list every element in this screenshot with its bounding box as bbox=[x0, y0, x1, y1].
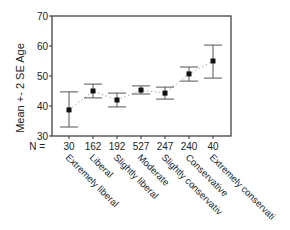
n-count-label: 40 bbox=[207, 141, 219, 152]
y-tick-label: 70 bbox=[37, 11, 49, 22]
error-bar-plot: 3040506070 N =3016219252724724040 Extrem… bbox=[0, 0, 290, 230]
mean-marker bbox=[211, 59, 216, 64]
mean-marker bbox=[115, 98, 120, 103]
plot-frame bbox=[52, 16, 231, 136]
n-count-label: 162 bbox=[85, 141, 102, 152]
y-tick-label: 60 bbox=[37, 41, 49, 52]
mean-marker bbox=[163, 91, 168, 96]
category-labels: Extremely liberalLiberalSlightly liberal… bbox=[64, 152, 278, 222]
plot-border bbox=[52, 16, 231, 136]
y-tick-label: 30 bbox=[37, 131, 49, 142]
mean-marker bbox=[187, 71, 192, 76]
chart-area: 3040506070 N =3016219252724724040 Extrem… bbox=[0, 0, 290, 230]
mean-marker bbox=[67, 107, 72, 112]
y-tick-label: 50 bbox=[37, 71, 49, 82]
mean-marker bbox=[139, 88, 144, 93]
n-count-label: 192 bbox=[109, 141, 126, 152]
y-axis-ticks: 3040506070 bbox=[37, 11, 52, 142]
y-axis-label: Mean +- 2 SE Age bbox=[14, 43, 26, 133]
n-count-label: 527 bbox=[133, 141, 150, 152]
y-tick-label: 40 bbox=[37, 101, 49, 112]
mean-marker bbox=[91, 89, 96, 94]
n-count-labels: N =3016219252724724040 bbox=[29, 141, 219, 152]
error-bars bbox=[60, 45, 222, 127]
n-count-label: 247 bbox=[157, 141, 174, 152]
n-prefix-label: N = bbox=[29, 141, 45, 152]
n-count-label: 240 bbox=[181, 141, 198, 152]
n-count-label: 30 bbox=[63, 141, 75, 152]
